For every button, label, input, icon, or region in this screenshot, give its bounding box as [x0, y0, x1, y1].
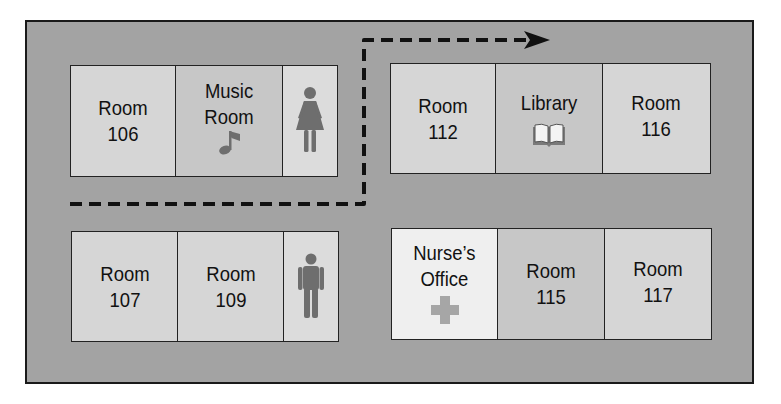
route-dashed-line: [70, 40, 528, 204]
route-arrowhead-icon: [524, 31, 550, 49]
route-path: [0, 0, 781, 404]
